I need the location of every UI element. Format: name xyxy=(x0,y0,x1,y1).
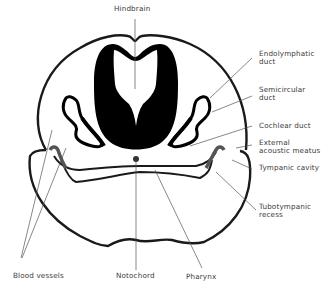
label-semicircular-line2: duct xyxy=(259,94,305,102)
label-external-line2: acoustic meatus xyxy=(259,147,320,155)
leader-pharynx xyxy=(155,170,202,268)
label-tubotympanic-line2: recess xyxy=(259,211,311,219)
label-cochlear-duct: Cochlear duct xyxy=(259,122,311,130)
leader-semicircular xyxy=(212,96,252,112)
right-tympanic-cavity xyxy=(206,147,224,168)
label-tympanic-cavity: Tympanic cavity xyxy=(259,164,319,172)
label-notochord: Notochord xyxy=(116,272,155,280)
label-external-acoustic-meatus: External acoustic meatus xyxy=(259,139,320,156)
leader-external-meatus xyxy=(236,145,252,148)
label-hindbrain: Hindbrain xyxy=(114,5,150,13)
leader-endolymphatic xyxy=(210,58,252,98)
label-endolymphatic-line2: duct xyxy=(259,58,315,66)
left-tympanic-cavity xyxy=(50,147,66,168)
notochord-shape xyxy=(133,156,139,162)
leader-cochlear xyxy=(190,126,252,146)
label-tubotympanic-recess: Tubotympanic recess xyxy=(259,203,311,220)
pharynx-lower-wall xyxy=(62,160,212,182)
label-pharynx: Pharynx xyxy=(186,273,216,281)
diagram-stage: Hindbrain Endolymphatic duct Semicircula… xyxy=(0,0,336,294)
label-endolymphatic-duct: Endolymphatic duct xyxy=(259,50,315,67)
label-semicircular-duct: Semicircular duct xyxy=(259,86,305,103)
label-blood-vessels: Blood vessels xyxy=(13,272,64,280)
